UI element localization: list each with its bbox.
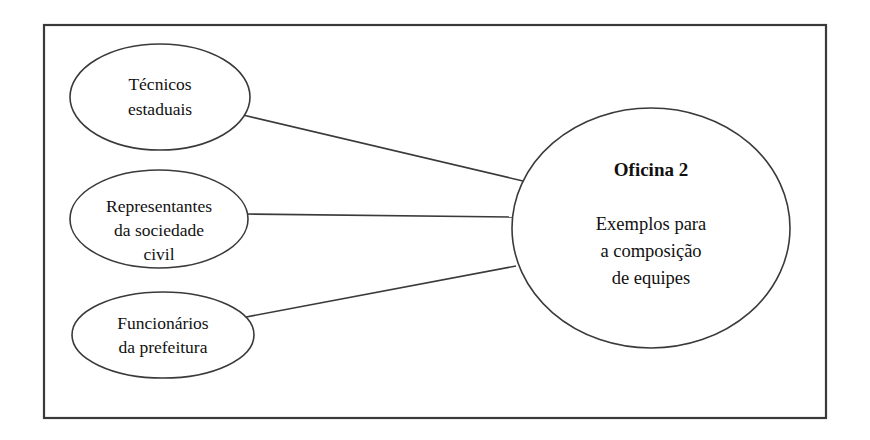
node-representantes-line-2: da sociedade bbox=[114, 220, 204, 240]
hub-title: Oficina 2 bbox=[614, 159, 688, 180]
hub-body-line-2: a composição bbox=[600, 241, 701, 261]
diagram-canvas-container: Técnicos estaduais Representantes da soc… bbox=[0, 0, 870, 440]
hub-body-line-1: Exemplos para bbox=[596, 214, 706, 234]
diagram-canvas: Técnicos estaduais Representantes da soc… bbox=[0, 0, 870, 440]
node-tecnicos-estaduais-ellipse[interactable] bbox=[70, 44, 250, 150]
node-tecnicos-estaduais-line-2: estaduais bbox=[128, 99, 192, 119]
node-funcionarios-prefeitura[interactable]: Funcionários da prefeitura bbox=[72, 292, 254, 378]
node-tecnicos-estaduais-line-1: Técnicos bbox=[128, 74, 191, 94]
node-representantes-line-3: civil bbox=[143, 244, 174, 264]
node-representantes-sociedade-civil[interactable]: Representantes da sociedade civil bbox=[70, 170, 248, 268]
node-funcionarios-prefeitura-ellipse[interactable] bbox=[72, 292, 254, 378]
node-hub-oficina-2[interactable]: Oficina 2 Exemplos para a composição de … bbox=[512, 108, 790, 348]
node-funcionarios-line-1: Funcionários bbox=[117, 313, 209, 333]
node-funcionarios-line-2: da prefeitura bbox=[119, 337, 208, 357]
node-representantes-line-1: Representantes bbox=[106, 196, 212, 216]
node-tecnicos-estaduais[interactable]: Técnicos estaduais bbox=[70, 44, 250, 150]
hub-body-line-3: de equipes bbox=[612, 268, 691, 288]
